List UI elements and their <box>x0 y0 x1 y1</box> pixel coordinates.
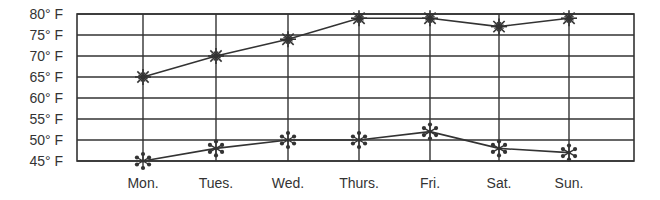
x-tick-label: Sun. <box>555 175 584 191</box>
y-tick-label: 60° F <box>29 90 63 106</box>
sun-star-marker-icon <box>208 48 224 64</box>
sun-star-marker-icon <box>135 69 151 85</box>
x-tick-label: Mon. <box>127 175 158 191</box>
y-axis-tick-labels: 80° F75° F70° F65° F60° F55° F50° F45° F <box>29 6 63 169</box>
sun-star-marker-icon <box>422 10 438 26</box>
sun-star-marker-icon <box>351 10 367 26</box>
y-tick-label: 80° F <box>29 6 63 22</box>
y-tick-label: 75° F <box>29 27 63 43</box>
chart-series <box>135 10 577 170</box>
x-tick-label: Sat. <box>487 175 512 191</box>
y-tick-label: 70° F <box>29 48 63 64</box>
temperature-line-chart: 80° F75° F70° F65° F60° F55° F50° F45° F… <box>0 0 660 200</box>
y-tick-label: 45° F <box>29 153 63 169</box>
plot-frame <box>77 14 634 161</box>
sun-star-marker-icon <box>491 19 507 35</box>
x-tick-label: Fri. <box>420 175 440 191</box>
x-tick-label: Thurs. <box>339 175 379 191</box>
y-tick-label: 55° F <box>29 111 63 127</box>
x-tick-label: Wed. <box>272 175 304 191</box>
x-axis-tick-labels: Mon.Tues.Wed.Thurs.Fri.Sat.Sun. <box>127 175 583 191</box>
y-tick-label: 65° F <box>29 69 63 85</box>
sun-star-marker-icon <box>561 10 577 26</box>
y-tick-label: 50° F <box>29 132 63 148</box>
x-tick-label: Tues. <box>199 175 234 191</box>
chart-grid <box>77 14 634 161</box>
sun-star-marker-icon <box>280 31 296 47</box>
